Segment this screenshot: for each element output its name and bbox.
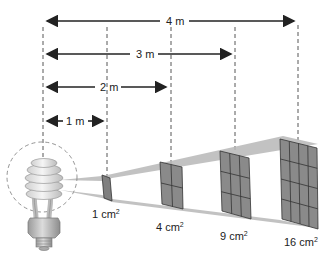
area-label-1cm2: 1 cm2 [92, 208, 120, 220]
area-square-9cm2 [220, 151, 251, 219]
distance-guides [43, 25, 298, 178]
distance-label-3m: 3 m [136, 48, 154, 60]
diagram-svg: 4 m 3 m 2 m 1 m 1 cm2 4 cm2 9 cm2 16 cm2 [0, 0, 328, 264]
distance-label-1m: 1 m [66, 115, 84, 127]
distance-label-4m: 4 m [166, 15, 184, 27]
area-label-9cm2: 9 cm2 [220, 230, 248, 242]
distance-label-2m: 2 m [100, 81, 118, 93]
area-square-4cm2 [160, 162, 183, 209]
inverse-square-diagram: 4 m 3 m 2 m 1 m 1 cm2 4 cm2 9 cm2 16 cm2 [0, 0, 328, 264]
area-label-16cm2: 16 cm2 [284, 236, 318, 248]
area-label-4cm2: 4 cm2 [156, 221, 184, 233]
light-bulb-icon [7, 142, 77, 251]
area-square-16cm2 [280, 139, 318, 229]
distance-arrows [47, 21, 294, 121]
